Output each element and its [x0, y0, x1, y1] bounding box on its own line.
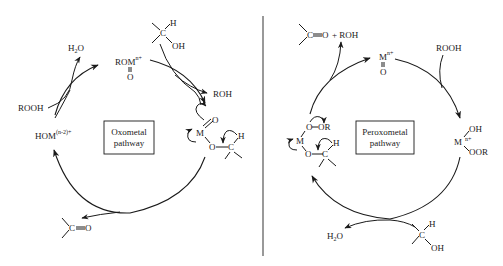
- alcohol-h: H: [429, 219, 436, 229]
- alcohol-bond-1: [412, 224, 419, 231]
- diagram-canvas: Oxometal pathway H2O ROOH HOM(n-2)+ ROMn…: [0, 0, 503, 266]
- water-out-arrow: [345, 220, 390, 228]
- curly-arrow-1: [196, 104, 206, 121]
- rooh-label: ROOH: [18, 103, 44, 113]
- rooh-label: ROOH: [436, 43, 462, 53]
- rom-oxo: O: [127, 72, 134, 82]
- arc-intermediate-to-hom: [54, 150, 205, 213]
- ketone-c: C: [307, 30, 313, 40]
- intermediate-c: C: [228, 142, 234, 152]
- ketone-bond-1: [62, 218, 69, 226]
- roh-out-arrow: [175, 75, 207, 93]
- ketone-o: O: [322, 30, 329, 40]
- arc-hom-to-rom: [55, 65, 98, 115]
- arc-rom-to-intermediate: [150, 60, 205, 103]
- peroxo-oh: OH: [469, 124, 482, 134]
- intermediate-h: H: [333, 138, 340, 148]
- peroxometal-cycle: Peroxometal pathway C O + ROH Mn+ O ROOH…: [289, 24, 488, 253]
- c-bond-down-2: [328, 159, 336, 166]
- water-label: H2O: [68, 43, 85, 54]
- intermediate-or: OR: [318, 122, 331, 132]
- intermediate-c: C: [322, 149, 328, 159]
- roh-label: ROH: [213, 89, 233, 99]
- ketone-out-arrow: [330, 42, 341, 80]
- alcohol-oh: OH: [172, 41, 185, 51]
- alcohol-bond-2: [152, 35, 160, 43]
- intermediate-m: M: [196, 128, 204, 138]
- peroxo-charge: n+: [465, 136, 472, 142]
- alcohol-c: C: [160, 28, 166, 38]
- moxo-m: Mn+: [379, 50, 394, 62]
- peroxo-oor: OOR: [469, 147, 488, 157]
- alcohol-h: H: [170, 18, 177, 28]
- peroxo-m: M: [454, 137, 462, 147]
- intermediate-m: M: [296, 136, 304, 146]
- plus-roh: + ROH: [332, 30, 359, 40]
- ketone-bond-1: [299, 24, 307, 32]
- oxometal-cycle: Oxometal pathway H2O ROOH HOM(n-2)+ ROMn…: [18, 18, 245, 238]
- rooh-in-arrow: [48, 57, 80, 108]
- ketone-c: C: [69, 223, 75, 233]
- c-bond-down-1: [319, 159, 324, 167]
- c-bond-down-1: [225, 152, 230, 159]
- alcohol-oh: OH: [431, 243, 444, 253]
- intermediate-h: H: [238, 131, 245, 141]
- ketone-bond-2: [299, 37, 307, 45]
- alcohol-in-line: [390, 220, 415, 227]
- ketone-o: O: [85, 223, 92, 233]
- oxometal-label-line1: Oxometal: [111, 127, 147, 137]
- peroxometal-label-line2: pathway: [370, 138, 401, 148]
- intermediate-o1: O: [306, 122, 313, 132]
- intermediate-o-top: O: [212, 115, 219, 125]
- rom-label: ROMn+: [115, 55, 143, 67]
- ketone-out-arrow: [82, 212, 120, 218]
- mo-double-a: [203, 119, 211, 126]
- intermediate-o2: O: [305, 149, 312, 159]
- c-bond-down-2: [234, 152, 242, 158]
- peroxometal-label-line1: Peroxometal: [362, 127, 408, 137]
- moxo-o: O: [380, 67, 387, 77]
- arc-peroxo-to-intermediate: [312, 157, 460, 219]
- ketone-bond-2: [62, 230, 69, 238]
- arc-intermediate-to-moxo: [310, 58, 370, 114]
- water-label: H2O: [327, 231, 344, 242]
- arc-moxo-to-peroxo: [395, 59, 460, 118]
- alcohol-bond-2: [412, 236, 419, 244]
- alcohol-c: C: [419, 230, 425, 240]
- oxometal-label-line2: pathway: [114, 138, 145, 148]
- hom-label: HOM(n-2)+: [35, 129, 72, 141]
- alcohol-bond-1: [152, 23, 160, 30]
- alcohol-in-line: [160, 44, 201, 105]
- curly-arrow-2: [188, 129, 196, 142]
- intermediate-o: O: [209, 142, 216, 152]
